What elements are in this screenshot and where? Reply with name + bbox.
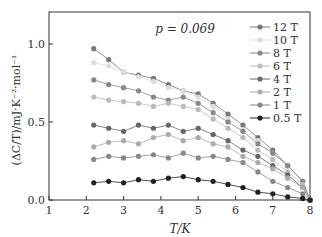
data-point [91, 180, 96, 185]
data-point [270, 166, 275, 171]
data-point [240, 123, 245, 128]
y-tick-label: 1.0 [28, 38, 46, 51]
data-point [270, 157, 275, 162]
data-point [106, 154, 111, 159]
data-point [121, 69, 126, 74]
series-line [94, 134, 310, 200]
legend-entry: 2 T [273, 86, 291, 99]
x-tick-label: 5 [195, 204, 202, 217]
data-point [166, 155, 171, 160]
data-point [300, 191, 305, 196]
data-point [211, 141, 216, 146]
data-point [91, 77, 96, 82]
series-line [94, 125, 310, 200]
data-point [181, 88, 186, 93]
data-point [136, 123, 141, 128]
data-point [285, 185, 290, 190]
data-point [225, 119, 230, 124]
x-tick-label: 7 [269, 204, 276, 217]
data-point [196, 94, 201, 99]
data-point [285, 176, 290, 181]
x-tick-label: 6 [232, 204, 239, 217]
data-point [255, 147, 260, 152]
data-point [255, 154, 260, 159]
data-point [255, 169, 260, 174]
data-point [151, 104, 156, 109]
data-point [211, 179, 216, 184]
data-point [151, 179, 156, 184]
data-point [181, 129, 186, 134]
data-point [270, 191, 275, 196]
data-point [121, 180, 126, 185]
data-point [211, 154, 216, 159]
data-point [285, 194, 290, 199]
data-point [106, 63, 111, 68]
data-point [181, 94, 186, 99]
data-point [136, 74, 141, 79]
data-point [166, 176, 171, 181]
data-point [211, 110, 216, 115]
data-point [106, 98, 111, 103]
data-point [91, 60, 96, 65]
data-point [166, 132, 171, 137]
data-point [196, 155, 201, 160]
data-point [136, 154, 141, 159]
data-point [181, 104, 186, 109]
data-point [106, 57, 111, 62]
data-point [136, 177, 141, 182]
x-tick-label: 1 [46, 204, 53, 217]
legend-entry: 6 T [273, 60, 291, 73]
data-point [300, 185, 305, 190]
data-point [225, 157, 230, 162]
data-point [91, 157, 96, 162]
data-point [255, 190, 260, 195]
data-point [151, 152, 156, 157]
data-point [270, 179, 275, 184]
plot-area: 123456780.00.51.0T/K(ΔC/T)/mJ·K⁻²·mol⁻¹p… [0, 0, 322, 237]
data-point [196, 135, 201, 140]
chart: 123456780.00.51.0T/K(ΔC/T)/mJ·K⁻²·mol⁻¹p… [0, 0, 322, 237]
data-point [270, 151, 275, 156]
y-axis-label: (ΔC/T)/mJ·K⁻²·mol⁻¹ [10, 55, 23, 166]
data-point [196, 126, 201, 131]
data-point [211, 132, 216, 137]
data-point [181, 174, 186, 179]
annotation: p = 0.069 [155, 22, 215, 36]
data-point [240, 147, 245, 152]
data-point [151, 79, 156, 84]
data-point [285, 163, 290, 168]
data-point [225, 182, 230, 187]
data-point [166, 123, 171, 128]
y-tick-label: 0.5 [28, 116, 46, 129]
data-point [136, 141, 141, 146]
data-point [91, 94, 96, 99]
data-point [308, 197, 313, 202]
data-point [181, 138, 186, 143]
data-point [121, 129, 126, 134]
x-tick-label: 4 [157, 204, 164, 217]
data-point [106, 140, 111, 145]
data-point [300, 196, 305, 201]
data-point [240, 154, 245, 159]
data-point [136, 88, 141, 93]
data-point [255, 141, 260, 146]
data-point [255, 160, 260, 165]
data-point [151, 94, 156, 99]
data-point [196, 107, 201, 112]
data-point [225, 138, 230, 143]
data-point [166, 85, 171, 90]
data-point [121, 138, 126, 143]
data-point [106, 126, 111, 131]
data-point [225, 112, 230, 117]
data-point [211, 116, 216, 121]
data-point [151, 135, 156, 140]
data-point [151, 126, 156, 131]
series-line [94, 177, 310, 200]
series-line [94, 153, 310, 200]
data-point [240, 135, 245, 140]
data-point [211, 104, 216, 109]
legend-entry: 0.5 T [273, 112, 302, 125]
legend-entry: 1 T [273, 99, 291, 112]
data-point [91, 46, 96, 51]
x-tick-label: 3 [120, 204, 127, 217]
